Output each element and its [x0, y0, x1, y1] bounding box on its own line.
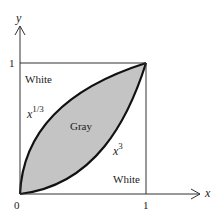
- x-axis-label: x: [204, 186, 211, 200]
- y-axis-label: y: [15, 11, 22, 25]
- curve-upper-label: x1/3: [26, 104, 44, 121]
- curve-upper-exponent: 1/3: [32, 104, 44, 114]
- y-tick-label: 1: [9, 57, 15, 69]
- upper-white-label: White: [25, 73, 52, 85]
- lower-white-label: White: [113, 173, 140, 185]
- x-tick-label: 1: [143, 199, 149, 211]
- origin-label: 0: [14, 199, 20, 211]
- curve-lower-exponent: 3: [118, 141, 123, 151]
- gray-label: Gray: [70, 120, 92, 132]
- curve-lower-label: x3: [112, 141, 123, 158]
- diagram-canvas: y x 1 1 0 White Gray White x1/3 x3: [0, 0, 222, 219]
